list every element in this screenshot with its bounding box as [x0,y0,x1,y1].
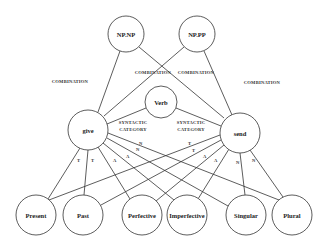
edge-nppp-send [204,51,232,115]
label-n-send-plural: N [252,158,256,163]
node-label-present: Present [26,212,48,219]
edge-send-singular [240,153,245,195]
label-t-give-past: T [91,158,94,163]
label-combination-npnp-give: COMBINATION [52,79,89,84]
label-syntactic-give: SYNTACTIC [119,120,148,125]
label-a-send-perfective: A [203,154,207,159]
nodes [16,16,312,235]
edge-send-past [101,140,221,205]
node-label-give: give [82,127,93,134]
node-label-verb: Verb [154,99,168,106]
edge-give-present [48,148,80,199]
node-label-npnp: NP.NP [117,31,135,38]
label-t-send-present: T [188,141,191,146]
edge-give-past [84,150,88,195]
node-label-nppp: NP.PP [188,31,206,38]
label-a-give-imperfective: A [126,154,130,159]
diagram-svg: COMBINATION COMBINATION COMBINATION COMB… [0,0,328,251]
label-n-give-plural: N [136,147,140,152]
node-label-send: send [234,130,247,137]
node-label-imperfective: Imperfective [169,212,204,219]
label-category-send: CATEGORY [177,127,205,132]
label-n-give-singular: N [139,141,143,146]
label-a-send-imperfective: A [214,158,218,163]
label-combination-npnp-send: COMBINATION [178,70,215,75]
node-label-plural: Plural [283,212,301,219]
label-t-send-past: T [192,148,195,153]
label-a-give-perfective: A [113,158,117,163]
edge-give-singular [107,138,228,206]
diagram-canvas: COMBINATION COMBINATION COMBINATION COMB… [0,0,328,251]
label-n-send-singular: N [236,160,240,165]
label-syntactic-send: SYNTACTIC [177,120,206,125]
node-labels: NP.NP NP.PP Verb give send Present Past … [26,31,301,219]
label-combination-nppp-send: COMBINATION [244,80,281,85]
edge-npnp-give [98,51,120,112]
label-combination-nppp-give: COMBINATION [135,70,172,75]
node-label-singular: Singular [234,212,258,219]
node-label-perfective: Perfective [128,212,156,219]
label-category-give: CATEGORY [119,127,147,132]
label-t-give-present: T [77,158,80,163]
node-label-past: Past [77,212,90,219]
